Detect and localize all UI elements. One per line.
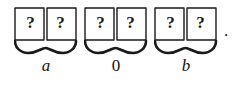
math-notation-figure: ? ? a ? ? 0 ? ? b . [0, 0, 242, 85]
trailing-period: . [224, 22, 228, 39]
cell-value: ? [117, 14, 144, 31]
underbrace-0 [85, 41, 146, 53]
underbrace-a [15, 41, 76, 53]
group-label-a: a [14, 57, 78, 74]
cell-value: ? [47, 14, 74, 31]
cell-value: ? [17, 14, 44, 31]
cell-value: ? [157, 14, 184, 31]
group-label-b: b [154, 57, 218, 74]
group-label-0: 0 [84, 57, 148, 74]
cell-value: ? [187, 14, 214, 31]
cell-value: ? [87, 14, 114, 31]
underbrace-b [155, 41, 216, 53]
